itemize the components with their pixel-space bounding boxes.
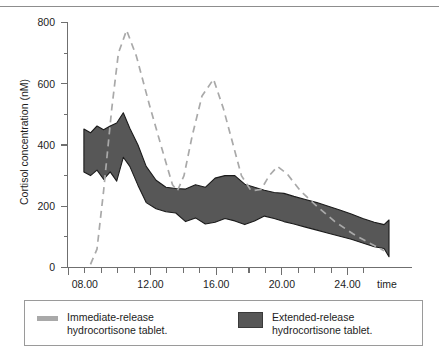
y-tick-label-400: 400 [37, 139, 55, 151]
legend-entry-immediate-release: Immediate-release hydrocortisone tablet. [37, 311, 167, 337]
legend-label-immediate-release: Immediate-release hydrocortisone tablet. [67, 311, 167, 337]
x-minor-ticks [85, 268, 364, 274]
x-major-ticks [68, 268, 347, 276]
x-axis-title: time [377, 278, 397, 290]
y-tick-label-800: 800 [37, 16, 55, 28]
x-tick-label-1600: 16.00 [203, 278, 229, 290]
legend-entry-extended-release: Extended-release hydrocortisone tablet. [238, 311, 372, 337]
y-tick-labels: 800 600 400 200 0 [37, 16, 55, 273]
x-tick-label-0800: 08.00 [72, 278, 98, 290]
x-tick-label-2400: 24.00 [334, 278, 360, 290]
ir-dash-swatch-icon [37, 316, 58, 321]
y-tick-label-0: 0 [49, 261, 55, 273]
legend-label-extended-release: Extended-release hydrocortisone tablet. [272, 311, 372, 337]
y-tick-label-200: 200 [37, 200, 55, 212]
y-axis-title: Cortisol concentration (nM) [18, 79, 30, 205]
x-tick-labels: 08.00 12.00 16.00 20.00 24.00 [72, 278, 361, 290]
y-tick-label-600: 600 [37, 78, 55, 90]
extended-release-band [84, 113, 389, 257]
x-tick-label-1200: 12.00 [137, 278, 163, 290]
figure-container: 800 600 400 200 0 Cortisol concentration… [0, 0, 439, 358]
x-tick-label-2000: 20.00 [269, 278, 295, 290]
y-major-ticks [61, 23, 68, 268]
chart-legend: Immediate-release hydrocortisone tablet.… [24, 300, 423, 346]
cortisol-chart: 800 600 400 200 0 Cortisol concentration… [0, 0, 439, 300]
er-fill-swatch-icon [238, 312, 263, 328]
